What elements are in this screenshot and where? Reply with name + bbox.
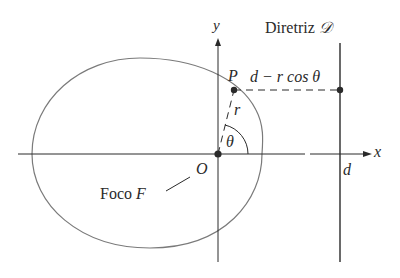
diagram-graphics [0,0,400,278]
distance-expression: d − r cos θ [250,69,320,85]
point-P-label: P [228,68,238,84]
diagram-canvas: y Diretriz 𝒟 P d − r cos θ r θ x O d Foc… [0,0,400,278]
point-P-dot [231,87,237,93]
origin-label: O [196,161,208,177]
focus-leader-line [166,177,190,191]
origin-dot [214,150,221,157]
directrix-foot-dot [337,87,343,93]
y-axis-arrow-icon [215,38,221,46]
d-tick-label: d [343,162,351,178]
focus-symbol: F [136,185,146,202]
directrix-symbol: 𝒟 [319,19,332,36]
focus-prefix: Foco [100,185,132,202]
focus-label: Foco F [100,186,146,202]
directrix-label: Diretriz 𝒟 [265,20,332,36]
y-axis-label: y [213,18,220,33]
directrix-prefix: Diretriz [265,19,315,36]
x-axis-arrow-icon [363,151,372,157]
angle-label: θ [226,134,234,150]
ellipse-curve [32,58,263,248]
x-axis-label: x [374,144,381,160]
radius-label: r [234,102,240,118]
